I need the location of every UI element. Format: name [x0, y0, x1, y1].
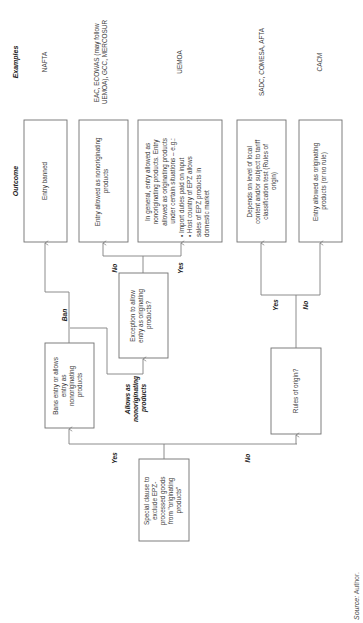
source-note: Source: Author.	[353, 572, 360, 620]
label-ban: Ban	[61, 309, 68, 321]
label-no-exception: No	[111, 264, 118, 273]
label-yes-rules: Yes	[272, 299, 279, 311]
decision-rules-of-origin: Rules of origin?	[271, 348, 321, 434]
examples-header: Examples	[12, 46, 20, 79]
example-sadc: SADC, COMESA, AFTA	[258, 27, 265, 96]
decision-bans-or-allows: Bans entry or allows entry as nonorigina…	[45, 343, 94, 428]
label-no-rules: No	[302, 301, 309, 310]
outcome-header: Outcome	[12, 166, 19, 196]
outcome-entry-banned: Entry banned	[24, 120, 67, 242]
svg-text:Entry allowed as originating: Entry allowed as originating products (o…	[312, 141, 328, 221]
flowchart: Outcome Examples Entry banned Entry allo…	[0, 0, 363, 623]
outcome-general-entry: In general, entry allowed as nonoriginat…	[138, 120, 222, 242]
start-special-clause: Special clause to exclude EPZ- processed…	[139, 459, 189, 541]
outcome-depends-local-content: Depends on level of local content and/or…	[237, 120, 286, 242]
connector-start-branch	[69, 444, 297, 459]
label-allows: Allows as nonoriginating products	[124, 374, 148, 422]
outcome-entry-nonoriginating: Entry allowed as nonoriginating products	[79, 120, 128, 242]
connector-rules-branch	[261, 295, 320, 348]
label-yes-exception: Yes	[177, 262, 184, 274]
connector-ban	[45, 243, 69, 343]
example-eac-ecowas: EAC, ECOWAS (may follow UEMOA), GCC, MER…	[93, 20, 109, 105]
label-yes-main: Yes	[111, 452, 118, 464]
example-nafta: NAFTA	[41, 51, 48, 72]
decision-exception: Exception to allow entry as originating …	[119, 273, 168, 358]
svg-text:Rules of origin?: Rules of origin?	[292, 368, 300, 413]
outcome-entry-originating: Entry allowed as originating products (o…	[299, 120, 342, 242]
example-uemoa: UEMOA	[176, 50, 183, 74]
svg-text:Entry banned: Entry banned	[41, 162, 49, 200]
svg-text:In general, entry allowed as: In general, entry allowed as nonoriginat…	[144, 136, 177, 226]
label-no-main: No	[244, 454, 251, 463]
example-cacm: CACM	[316, 53, 323, 72]
